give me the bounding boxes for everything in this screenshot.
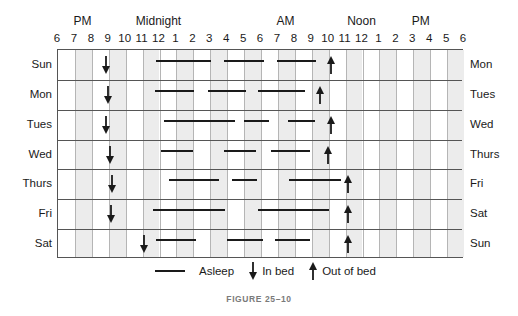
out-of-bed-arrow-icon	[315, 86, 325, 104]
asleep-bar	[258, 209, 329, 211]
hour-column	[244, 50, 261, 257]
hour-column	[261, 50, 278, 257]
asleep-bar	[258, 90, 305, 92]
hour-tick-label: 3	[409, 32, 415, 44]
hour-column	[346, 50, 363, 257]
asleep-bar	[224, 150, 256, 152]
hour-column	[430, 50, 447, 257]
hour-column	[193, 50, 210, 257]
hour-tick-label: 2	[392, 32, 398, 44]
hour-tick-label: 9	[105, 32, 111, 44]
end-day-label: Sun	[470, 237, 490, 249]
end-day-label: Sat	[470, 207, 487, 219]
hour-column	[396, 50, 413, 257]
end-day-label: Mon	[470, 58, 492, 70]
hour-tick-label: 12	[152, 32, 165, 44]
asleep-bar	[164, 120, 235, 122]
in-bed-arrow-icon	[101, 116, 111, 134]
legend: Asleep In bed Out of bed	[155, 262, 390, 280]
start-day-label: Fri	[39, 207, 52, 219]
hour-column	[143, 50, 160, 257]
in-bed-arrow-icon	[101, 56, 111, 74]
asleep-bar	[288, 120, 315, 122]
hour-tick-label: 10	[118, 32, 131, 44]
hour-tick-label: 6	[257, 32, 263, 44]
hour-tick-label: 6	[460, 32, 466, 44]
asleep-bar	[271, 150, 310, 152]
hour-column	[227, 50, 244, 257]
out-of-bed-arrow-icon	[326, 56, 336, 74]
in-bed-arrow-icon	[106, 205, 116, 223]
start-day-label: Sun	[32, 58, 52, 70]
row-divider	[58, 80, 462, 81]
legend-out-of-bed-label: Out of bed	[322, 265, 376, 277]
asleep-bar	[161, 150, 193, 152]
asleep-bar	[169, 179, 219, 181]
out-of-bed-arrow-icon	[326, 116, 336, 134]
legend-in-bed: In bed	[248, 262, 294, 280]
hour-column	[126, 50, 143, 257]
start-day-label: Wed	[29, 148, 52, 160]
hour-column	[278, 50, 295, 257]
hour-column	[176, 50, 193, 257]
row-divider	[58, 140, 462, 141]
legend-asleep: Asleep	[155, 265, 234, 277]
legend-asleep-label: Asleep	[199, 265, 234, 277]
out-of-bed-arrow-icon	[343, 235, 353, 253]
down-arrow-icon	[248, 262, 258, 280]
period-label: PM	[73, 14, 91, 28]
hour-tick-label: 2	[189, 32, 195, 44]
asleep-bar	[208, 90, 246, 92]
asleep-bar	[224, 60, 265, 62]
hour-tick-label: 6	[54, 32, 60, 44]
asleep-bar	[156, 60, 211, 62]
row-divider	[58, 199, 462, 200]
end-day-label: Tues	[470, 88, 495, 100]
hour-column	[363, 50, 380, 257]
period-label: AM	[276, 14, 294, 28]
asleep-bar	[277, 60, 316, 62]
hour-tick-label: 8	[88, 32, 94, 44]
hour-tick-label: 12	[355, 32, 368, 44]
end-day-label: Wed	[470, 118, 493, 130]
sleep-grid	[57, 49, 463, 258]
hour-tick-label: 11	[136, 32, 148, 44]
asleep-line-icon	[155, 270, 185, 272]
asleep-bar	[227, 239, 263, 241]
hour-tick-label: 10	[321, 32, 334, 44]
asleep-bar	[275, 239, 311, 241]
row-divider	[58, 169, 462, 170]
start-day-label: Mon	[30, 88, 52, 100]
period-label: Midnight	[136, 14, 181, 28]
asleep-bar	[289, 179, 341, 181]
in-bed-arrow-icon	[103, 86, 113, 104]
hour-tick-label: 7	[71, 32, 77, 44]
hour-column	[379, 50, 396, 257]
hour-column	[160, 50, 177, 257]
end-day-label: Thurs	[470, 148, 499, 160]
hour-tick-label: 1	[172, 32, 178, 44]
asleep-bar	[155, 90, 194, 92]
row-divider	[58, 110, 462, 111]
hour-column	[58, 50, 75, 257]
hour-tick-label: 7	[274, 32, 280, 44]
hour-column	[413, 50, 430, 257]
start-day-label: Tues	[27, 118, 52, 130]
up-arrow-icon	[308, 262, 318, 280]
row-divider	[58, 229, 462, 230]
in-bed-arrow-icon	[139, 235, 149, 253]
out-of-bed-arrow-icon	[343, 175, 353, 193]
hour-column	[75, 50, 92, 257]
period-label: PM	[412, 14, 430, 28]
figure-caption: FIGURE 25–10	[0, 294, 518, 304]
period-label: Noon	[347, 14, 376, 28]
hour-column	[447, 50, 464, 257]
in-bed-arrow-icon	[107, 175, 117, 193]
hour-tick-label: 1	[375, 32, 381, 44]
start-day-label: Sat	[35, 237, 52, 249]
hour-tick-label: 9	[308, 32, 314, 44]
in-bed-arrow-icon	[105, 146, 115, 164]
hour-column	[210, 50, 227, 257]
hour-tick-label: 11	[339, 32, 351, 44]
hour-tick-label: 3	[206, 32, 212, 44]
